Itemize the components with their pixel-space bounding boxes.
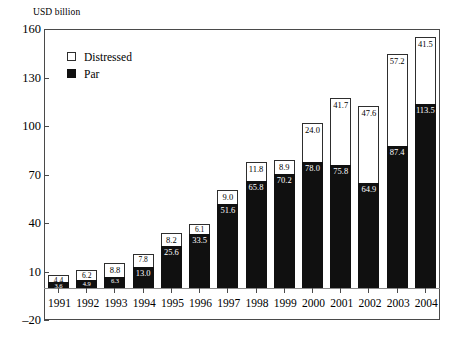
x-tick-label: 1999 <box>274 297 295 309</box>
x-tick-cell <box>358 288 379 293</box>
bar-segment-par[interactable]: 75.8 <box>330 165 351 288</box>
bar-column[interactable]: 4.43.6 <box>48 29 69 288</box>
bar-segment-par[interactable]: 51.6 <box>217 204 238 287</box>
bar-segment-distressed[interactable]: 6.1 <box>189 224 210 234</box>
bar-segment-distressed[interactable]: 9.0 <box>217 190 238 205</box>
x-tick-mark <box>58 288 59 293</box>
x-tick-cell <box>133 288 154 293</box>
x-tick-cell <box>161 288 182 293</box>
x-tick-mark <box>171 288 172 293</box>
bar-segment-distressed[interactable]: 8.9 <box>274 160 295 174</box>
x-tick-cell <box>48 288 69 293</box>
bar-value-label-distressed: 47.6 <box>361 107 376 118</box>
chart-legend: Distressed Par <box>67 48 132 82</box>
bar-value-label-distressed: 8.8 <box>110 264 121 275</box>
bar-segment-par[interactable]: 25.6 <box>161 246 182 287</box>
bar-segment-par[interactable]: 33.5 <box>189 234 210 288</box>
bar-segment-par[interactable]: 64.9 <box>358 183 379 288</box>
bar-segment-distressed[interactable]: 7.8 <box>133 254 154 267</box>
x-tick-mark <box>143 288 144 293</box>
x-tick-mark <box>312 288 313 293</box>
bar-value-label-par: 51.6 <box>220 204 235 215</box>
y-tick-label: 130 <box>22 70 41 85</box>
bar-column[interactable]: 41.775.8 <box>330 29 351 288</box>
bar-segment-par[interactable]: 78.0 <box>302 162 323 288</box>
bar-segment-distressed[interactable]: 8.2 <box>161 233 182 246</box>
bar-segment-distressed[interactable]: 47.6 <box>358 106 379 183</box>
bar-column[interactable]: 8.225.6 <box>161 29 182 288</box>
x-tick-label: 1994 <box>133 297 154 309</box>
bar-segment-distressed[interactable]: 57.2 <box>387 54 408 146</box>
bar-segment-distressed[interactable]: 41.5 <box>415 37 436 104</box>
legend-label-distressed: Distressed <box>84 51 132 63</box>
x-tick-cell <box>302 288 323 293</box>
x-tick-label: 2000 <box>302 297 323 309</box>
bar-value-label-par: 78.0 <box>305 162 320 173</box>
bar-value-label-par: 64.9 <box>361 183 376 194</box>
bar-column[interactable]: 41.5113.5 <box>415 29 436 288</box>
bar-segment-distressed[interactable]: 8.8 <box>104 263 125 277</box>
bar-segment-par[interactable]: 4.9 <box>76 280 97 288</box>
bar-value-label-par: 25.6 <box>164 246 179 257</box>
bar-value-label-distressed: 24.0 <box>305 124 320 135</box>
x-tick-cell <box>189 288 210 293</box>
bar-column[interactable]: 8.970.2 <box>274 29 295 288</box>
x-tick-label: 2003 <box>387 297 408 309</box>
bar-segment-distressed[interactable]: 24.0 <box>302 123 323 162</box>
bar-segment-par[interactable]: 87.4 <box>387 146 408 287</box>
bar-segment-distressed[interactable]: 11.8 <box>246 162 267 181</box>
x-tick-label: 1995 <box>161 297 182 309</box>
bar-value-label-par: 87.4 <box>390 146 405 157</box>
bar-segment-distressed[interactable]: 41.7 <box>330 98 351 165</box>
x-tick-mark <box>114 288 115 293</box>
x-tick-mark <box>199 288 200 293</box>
x-tick-cell <box>246 288 267 293</box>
y-tick-label: 160 <box>22 22 41 37</box>
bar-column[interactable]: 57.287.4 <box>387 29 408 288</box>
x-tick-cell <box>387 288 408 293</box>
y-tick-label: 40 <box>29 216 42 231</box>
y-axis-tick-labels: 160130100704010–20 <box>0 0 41 342</box>
y-tick-label: –20 <box>22 313 41 328</box>
bar-segment-par[interactable]: 113.5 <box>415 104 436 287</box>
bar-value-label-par: 65.8 <box>249 181 264 192</box>
x-tick-cell <box>104 288 125 293</box>
bar-column[interactable]: 11.865.8 <box>246 29 267 288</box>
x-tick-label: 1996 <box>189 297 210 309</box>
legend-swatch-distressed-icon <box>67 52 76 61</box>
bar-segment-par[interactable]: 13.0 <box>133 267 154 288</box>
bar-segment-par[interactable]: 65.8 <box>246 181 267 287</box>
x-tick-mark <box>256 288 257 293</box>
bar-value-label-distressed: 6.1 <box>195 225 204 234</box>
bar-segment-par[interactable]: 6.3 <box>104 277 125 287</box>
bar-column[interactable]: 47.664.9 <box>358 29 379 288</box>
bar-column[interactable]: 7.813.0 <box>133 29 154 288</box>
bar-value-label-par: 33.5 <box>192 234 207 245</box>
bar-value-label-distressed: 8.2 <box>166 234 177 245</box>
legend-swatch-par-icon <box>67 69 76 78</box>
bar-value-label-distressed: 57.2 <box>390 55 405 66</box>
x-tick-label: 1997 <box>217 297 238 309</box>
bar-segment-par[interactable]: 70.2 <box>274 174 295 287</box>
x-tick-mark <box>425 288 426 293</box>
bar-value-label-distressed: 9.0 <box>223 191 234 202</box>
bar-column[interactable]: 24.078.0 <box>302 29 323 288</box>
bar-value-label-par: 75.8 <box>333 165 348 176</box>
x-tick-mark <box>368 288 369 293</box>
bar-column[interactable]: 6.133.5 <box>189 29 210 288</box>
bar-value-label-distressed: 41.5 <box>418 38 433 49</box>
x-tick-label: 1992 <box>76 297 97 309</box>
x-tick-cell <box>76 288 97 293</box>
x-tick-mark <box>86 288 87 293</box>
bar-segment-distressed[interactable]: 6.2 <box>76 270 97 280</box>
y-tick-label: 70 <box>29 167 42 182</box>
x-tick-cell <box>217 288 238 293</box>
bar-column[interactable]: 9.051.6 <box>217 29 238 288</box>
legend-item-distressed: Distressed <box>67 48 132 65</box>
bar-segment-distressed[interactable]: 4.4 <box>48 275 69 282</box>
x-tick-label: 2002 <box>358 297 379 309</box>
bar-value-label-par: 4.9 <box>83 280 91 288</box>
stacked-bar-chart: USD billion 160130100704010–20 4.43.66.2… <box>0 0 459 342</box>
y-tick-label: 10 <box>29 264 42 279</box>
bar-value-label-par: 113.5 <box>416 104 435 115</box>
